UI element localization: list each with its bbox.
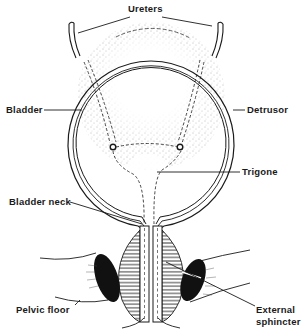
label-pelvic-floor: Pelvic floor	[16, 304, 70, 315]
urethral-sphincter	[119, 230, 184, 322]
label-ureters: Ureters	[128, 3, 163, 14]
label-bladder: Bladder	[6, 104, 43, 115]
bladder-diagram	[0, 0, 303, 329]
bladder-lumen	[70, 15, 235, 190]
label-trigone: Trigone	[242, 166, 278, 177]
urethra	[140, 226, 162, 322]
label-external-sphincter-line2: sphincter	[256, 316, 301, 327]
label-external-sphincter-line1: External	[256, 304, 295, 315]
urethra-tail	[122, 318, 180, 328]
label-detrusor: Detrusor	[247, 104, 288, 115]
label-bladder-neck: Bladder neck	[9, 196, 71, 207]
